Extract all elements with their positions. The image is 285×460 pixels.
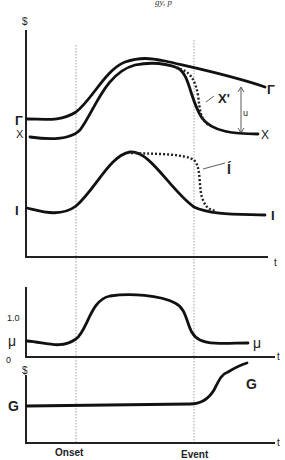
g-right-label: G	[246, 376, 257, 392]
panel1-y-label: $	[22, 16, 28, 27]
panel3-x-label: t	[277, 437, 280, 448]
panel-2: t 1.0 0 μ μ	[6, 287, 280, 365]
tick-0: 0	[6, 355, 11, 365]
gamma-right-label: Γ	[267, 82, 275, 97]
tick-1-0: 1.0	[7, 313, 20, 323]
u-label: u	[243, 108, 248, 118]
i-left-label: I	[15, 203, 19, 218]
g-curve	[27, 363, 247, 406]
event-label: Event	[181, 449, 209, 460]
i-prime-curve	[131, 153, 216, 211]
panel-3: $ t G G Onset Event	[8, 363, 280, 460]
mu-left-label: μ	[8, 333, 16, 349]
x-left-label: X	[16, 128, 24, 140]
i-right-label: I	[271, 208, 275, 223]
i-prime-label: Í	[227, 161, 232, 177]
panel1-x-label: t	[274, 257, 277, 268]
panel2-x-label: t	[277, 351, 280, 362]
diagram-canvas: gy, p $ t u X' Γ X Γ X Í I I	[0, 0, 285, 460]
x-prime-label: X'	[218, 91, 230, 106]
x-right-label: X	[261, 128, 269, 142]
gamma-curve	[27, 59, 265, 120]
onset-label: Onset	[55, 447, 84, 458]
g-left-label: G	[8, 398, 19, 414]
mu-curve	[27, 295, 248, 345]
panel-1: $ t u X' Γ X Γ X Í I I	[15, 16, 277, 268]
mu-right-label: μ	[253, 335, 261, 351]
panel3-y-label: $	[22, 365, 28, 376]
caption-fragment: gy, p	[155, 0, 172, 7]
gamma-left-label: Γ	[15, 113, 23, 128]
